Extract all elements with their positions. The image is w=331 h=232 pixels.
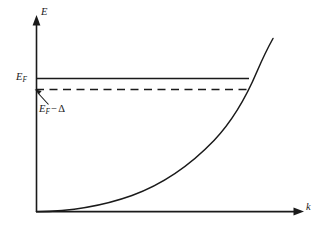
- y-axis-label-text: E: [41, 6, 47, 17]
- fermi-minus-delta-label: EF−Δ: [39, 104, 65, 115]
- figure-canvas: [0, 0, 331, 232]
- x-axis-label: k: [306, 202, 311, 213]
- fermi-minus-delta-label-delta: Δ: [58, 103, 65, 114]
- fermi-level-label-subscript: F: [23, 75, 28, 84]
- fermi-minus-delta-label-subscript: F: [46, 107, 51, 116]
- arrow-up-icon: [33, 15, 41, 26]
- y-axis-label: E: [41, 7, 47, 18]
- x-axis-label-text: k: [306, 201, 311, 212]
- energy-dispersion-figure: E k EF EF−Δ: [0, 0, 331, 232]
- arrow-right-icon: [294, 208, 305, 216]
- fermi-minus-delta-label-base: E: [39, 103, 45, 114]
- fermi-level-label: EF: [16, 72, 27, 83]
- dispersion-curve: [37, 39, 274, 212]
- fermi-minus-delta-label-operator: −: [50, 103, 58, 114]
- fermi-level-label-base: E: [16, 71, 22, 82]
